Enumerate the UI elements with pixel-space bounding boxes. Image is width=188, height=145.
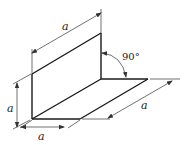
angle-bracket-diagram: a 90° a a a: [0, 0, 188, 145]
top-length-dimension: [32, 9, 101, 74]
horizontal-flange: [32, 79, 148, 119]
right-length-dimension: [82, 79, 180, 119]
angle-label: 90°: [122, 51, 140, 62]
right-length-label: a: [141, 99, 148, 112]
height-label: a: [7, 102, 14, 115]
bottom-width-dimension: [20, 120, 80, 128]
vertical-flange: [32, 33, 101, 119]
top-length-label: a: [62, 20, 69, 33]
bottom-width-label: a: [38, 130, 45, 143]
height-dimension: [13, 74, 31, 129]
